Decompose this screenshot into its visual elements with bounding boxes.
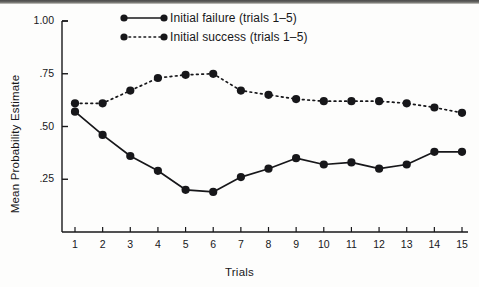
y-axis-title: Mean Probability Estimate [9,69,21,219]
x-tick-label: 10 [313,238,335,250]
data-point [292,154,300,162]
data-point [430,148,438,156]
x-tick-label: 3 [119,238,141,250]
x-tick-label: 2 [92,238,114,250]
data-point [403,99,411,107]
data-point [182,71,190,79]
x-tick-label: 4 [147,238,169,250]
data-point [154,74,162,82]
data-point [209,188,217,196]
data-point [375,97,383,105]
data-point [458,109,466,117]
x-tick-label: 14 [423,238,445,250]
x-tick-label: 5 [175,238,197,250]
legend-key-solid-line-icon [118,11,170,25]
data-point [458,148,466,156]
x-tick-label: 1 [64,238,86,250]
data-point [264,165,272,173]
data-point [375,165,383,173]
y-tick-label: 1.00 [20,14,54,26]
data-point [182,186,190,194]
x-tick-label: 7 [230,238,252,250]
y-tick-label: .75 [20,67,54,79]
data-point [347,158,355,166]
legend-item-initial-success[interactable]: Initial success (trials 1–5) [118,27,348,46]
data-point [71,99,79,107]
x-tick-label: 6 [202,238,224,250]
data-point [99,131,107,139]
data-point [403,160,411,168]
legend: Initial failure (trials 1–5) Initial suc… [118,8,348,46]
legend-key-dotted-line-icon [118,30,170,44]
x-tick-label: 9 [285,238,307,250]
data-point [292,95,300,103]
x-tick-label: 11 [340,238,362,250]
y-axis-ticks [62,21,68,179]
x-axis-title: Trials [0,266,479,278]
data-point [154,167,162,175]
data-point [126,87,134,95]
data-point [320,160,328,168]
x-tick-label: 13 [396,238,418,250]
data-point [320,97,328,105]
x-tick-label: 12 [368,238,390,250]
data-point [209,70,217,78]
x-tick-label: 15 [451,238,473,250]
legend-item-initial-failure[interactable]: Initial failure (trials 1–5) [118,8,348,27]
data-point [347,97,355,105]
y-tick-label: .25 [20,172,54,184]
x-tick-label: 8 [258,238,280,250]
data-point [430,103,438,111]
x-axis-ticks [75,227,462,232]
data-point [237,173,245,181]
axis-lines [62,21,468,232]
data-series-layer [71,70,466,196]
series-line-1 [75,112,462,192]
figure-chart: Initial failure (trials 1–5) Initial suc… [0,0,479,287]
data-point [237,87,245,95]
data-point [126,152,134,160]
legend-label-initial-success: Initial success (trials 1–5) [170,30,308,44]
y-tick-label: .50 [20,120,54,132]
data-point [99,99,107,107]
legend-label-initial-failure: Initial failure (trials 1–5) [170,11,297,25]
data-point [264,91,272,99]
data-point [71,108,79,116]
